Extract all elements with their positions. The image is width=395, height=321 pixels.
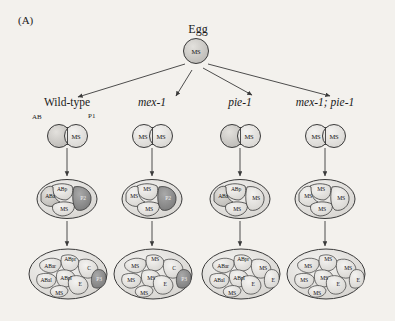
cell-8c-mex1-MS: MS [140,290,148,296]
panel-label: (A) [18,14,33,26]
cell-4c-dbl-MS: MS [318,206,326,212]
cell-2c-mex1-left: MS [139,133,148,140]
embryo-2cell-mex-1-pie-1 [301,122,351,150]
cell-2c-mex1-right: MS [157,133,166,140]
cell-8c-wt-MS: MS [55,290,63,296]
cell-4c-dbl-P2: MS [337,195,345,201]
cell-8c-dbl-E: E [336,281,339,287]
cell-8c-dbl-C: MS [344,265,352,271]
cell-2c-wt-right: MS [72,133,81,140]
cell-8c-mex1-ABar: MS [131,263,139,269]
cell-8c-pie1-MS: MS [228,290,236,296]
cell-8c-mex1-C: C [172,265,176,271]
cell-8c-wt-C: C [87,265,91,271]
cell-4c-wt-ABp: ABp [57,186,67,192]
cell-8c-wt-ABar: ABar [44,263,55,269]
cell-2c-dbl-left: MS [312,133,321,140]
cell-8c-wt-P3: P3 [96,276,102,282]
cell-8c-mex1-ABal: MS [127,277,135,283]
cell-8c-mex1-P3: P3 [181,276,187,282]
egg-label: Egg [168,22,228,37]
cell-4c-pie1-MS: MS [233,206,241,212]
ab-annotation: AB [32,113,42,121]
embryo-2cell-mex-1 [128,122,178,150]
cell-8c-wt-ABpr: ABpr [64,256,76,262]
figure-panel: (A) Egg [0,0,395,321]
cell-8c-wt-ABal: ABal [40,277,51,283]
cell-4c-pie1-P2: MS [252,195,260,201]
cell-2c-pie1-right: MS [245,133,254,140]
cell-8c-wt-E: E [78,281,81,287]
embryo-4cell-wild-type [36,177,99,222]
embryo-2cell-pie-1 [216,122,266,150]
cell-4c-dbl-ABa: MS [304,193,312,199]
column-header-mex-1-pie-1: mex-1; pie-1 [270,96,380,108]
cell-8c-dbl-ABpr: MS [324,256,332,262]
cell-8c-pie1-E: E [251,281,254,287]
embryo-4cell-pie-1 [209,177,272,222]
cell-8c-dbl-MS: MS [313,290,321,296]
cell-4c-wt-MS: MS [60,206,68,212]
embryo-4cell-mex-1-pie-1 [294,177,357,222]
cell-8c-pie1-ABpl: ABpl [233,275,244,281]
cell-8c-dbl-P3: E [356,277,359,283]
cell-4c-mex1-P2: P2 [165,195,171,201]
cell-4c-mex1-ABa: MS [130,193,138,199]
cell-4c-dbl-ABp: MS [317,186,325,192]
embryo-4cell-mex-1 [121,177,184,222]
cell-8c-mex1-ABpl: MS [147,275,155,281]
p1-annotation: P1 [88,112,95,120]
cell-4c-wt-ABa: ABa [45,193,55,199]
cell-8c-dbl-ABar: MS [304,263,312,269]
embryo-2cell-wild-type [43,122,93,150]
egg-cell-label: MS [192,48,201,55]
cell-4c-pie1-ABa: ABa [218,193,228,199]
cell-8c-mex1-E: E [163,281,166,287]
cell-4c-pie1-ABp: ABp [231,186,241,192]
cell-2c-dbl-right: MS [330,133,339,140]
cell-8c-pie1-ABpr: ABpr [237,256,249,262]
cell-8c-pie1-ABar: ABar [217,263,228,269]
cell-4c-mex1-MS: MS [145,206,153,212]
cell-8c-pie1-ABal: ABal [213,277,224,283]
cell-8c-pie1-C: MS [259,265,267,271]
cell-8c-mex1-ABpr: MS [151,256,159,262]
cell-8c-dbl-ABal: MS [300,277,308,283]
cell-4c-mex1-ABp: MS [143,186,151,192]
cell-8c-dbl-ABpl: MS [320,275,328,281]
cell-4c-wt-P2: P2 [80,195,86,201]
cell-8c-pie1-P3: E [271,277,274,283]
cell-8c-wt-ABpl: ABpl [60,275,71,281]
